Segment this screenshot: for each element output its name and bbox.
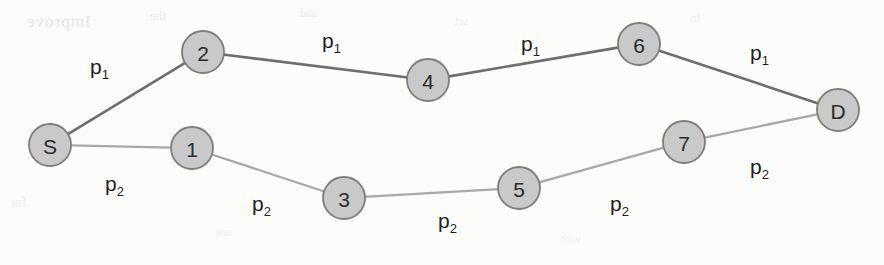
edge-label-base: p bbox=[610, 192, 622, 215]
graph-node-5: 5 bbox=[498, 167, 540, 209]
edge-label-base: p bbox=[521, 32, 533, 55]
graph-node-6: 6 bbox=[618, 23, 660, 65]
graph-edge-S-2 bbox=[67, 62, 186, 134]
graph-node-2: 2 bbox=[182, 31, 224, 73]
graph-edge-3-5 bbox=[364, 189, 499, 197]
graph-node-D: D bbox=[817, 89, 859, 131]
edge-label-base: p bbox=[750, 41, 762, 64]
edge-label-1-3: p2 bbox=[252, 193, 271, 214]
graph-node-7: 7 bbox=[663, 121, 705, 163]
edge-label-2-4: p1 bbox=[322, 30, 341, 51]
edge-label-subscript: 2 bbox=[117, 184, 124, 199]
node-label-4: 4 bbox=[422, 70, 434, 93]
edge-label-base: p bbox=[438, 209, 450, 232]
graph-edge-6-D bbox=[658, 50, 819, 103]
edge-label-3-5: p2 bbox=[438, 210, 457, 231]
edge-label-subscript: 1 bbox=[334, 41, 341, 56]
graph-node-S: S bbox=[29, 124, 71, 166]
graph-node-3: 3 bbox=[323, 177, 365, 219]
node-label-2: 2 bbox=[197, 42, 209, 65]
edge-label-subscript: 2 bbox=[450, 221, 457, 236]
edge-label-S-2: p1 bbox=[90, 56, 109, 77]
node-label-5: 5 bbox=[513, 178, 525, 201]
edge-label-base: p bbox=[105, 172, 117, 195]
edge-label-6-D: p1 bbox=[750, 42, 769, 63]
node-label-D: D bbox=[830, 100, 845, 123]
edge-label-base: p bbox=[750, 155, 762, 178]
edge-label-5-7: p2 bbox=[610, 193, 629, 214]
node-label-6: 6 bbox=[633, 34, 645, 57]
node-label-3: 3 bbox=[338, 188, 350, 211]
network-diagram: Improve the and set in for one with S246… bbox=[0, 0, 884, 265]
edge-label-subscript: 1 bbox=[762, 53, 769, 68]
edge-label-4-6: p1 bbox=[521, 33, 540, 54]
graph-edge-2-4 bbox=[223, 54, 408, 77]
node-layer: S246D1357 bbox=[29, 23, 859, 219]
graph-edge-5-7 bbox=[538, 147, 664, 182]
edge-label-subscript: 1 bbox=[102, 67, 109, 82]
edge-label-base: p bbox=[90, 55, 102, 78]
graph-edge-7-D bbox=[704, 114, 819, 138]
edge-label-S-1: p2 bbox=[105, 173, 124, 194]
node-label-7: 7 bbox=[678, 132, 690, 155]
edge-label-subscript: 2 bbox=[264, 204, 271, 219]
node-label-1: 1 bbox=[186, 138, 198, 161]
graph-edge-1-3 bbox=[211, 154, 325, 192]
edge-label-7-D: p2 bbox=[750, 156, 769, 177]
edge-label-base: p bbox=[252, 192, 264, 215]
edge-label-base: p bbox=[322, 29, 334, 52]
edge-label-subscript: 1 bbox=[533, 44, 540, 59]
edge-label-subscript: 2 bbox=[622, 204, 629, 219]
node-label-S: S bbox=[43, 135, 57, 158]
graph-node-1: 1 bbox=[171, 127, 213, 169]
graph-edge-S-1 bbox=[70, 145, 172, 147]
edge-label-subscript: 2 bbox=[762, 167, 769, 182]
graph-node-4: 4 bbox=[407, 59, 449, 101]
